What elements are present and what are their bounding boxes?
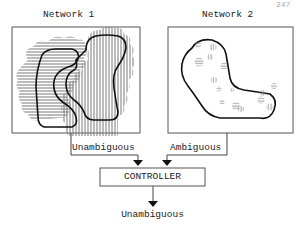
network1-output-label: Unambiguous <box>72 142 135 153</box>
arrow-down-icon <box>148 201 158 207</box>
controller-output-label: Unambiguous <box>100 209 205 220</box>
network2-title: Network 2 <box>202 9 253 20</box>
network2-output-label: Ambiguous <box>170 142 221 153</box>
arrow-down-icon <box>162 160 172 166</box>
arrow-down-icon <box>133 160 143 166</box>
diagram-canvas <box>0 0 300 225</box>
controller-label: CONTROLLER <box>100 171 205 182</box>
network1-title: Network 1 <box>43 9 94 20</box>
page-number: 247 <box>276 0 290 9</box>
